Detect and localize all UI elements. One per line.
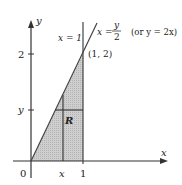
label-or-y-equals-2x: (or y = 2x) [131, 27, 177, 37]
x-tick-label-1: 1 [80, 168, 86, 179]
label-x-equals-1: x = 1 [58, 33, 82, 43]
region-label-R: R [64, 115, 73, 126]
x-axis-label: x [161, 147, 167, 158]
label-x-equals-lhs: x = [97, 27, 112, 37]
label-fraction-numerator: y [113, 20, 120, 30]
origin-label: 0 [20, 168, 26, 179]
y-axis-arrow-icon [28, 20, 34, 28]
x-tick-label-x: x [59, 168, 65, 179]
y-tick-label-y: y [17, 104, 24, 115]
x-axis-arrow-icon [160, 158, 168, 164]
y-axis-label: y [35, 15, 42, 26]
region-diagram: y x 0 2 y x 1 R x = 1 (1, 2) x = y 2 (or… [0, 0, 182, 185]
label-fraction-denominator: 2 [114, 32, 120, 42]
point-label-1-2: (1, 2) [88, 49, 112, 59]
y-tick-label-2: 2 [18, 49, 24, 60]
